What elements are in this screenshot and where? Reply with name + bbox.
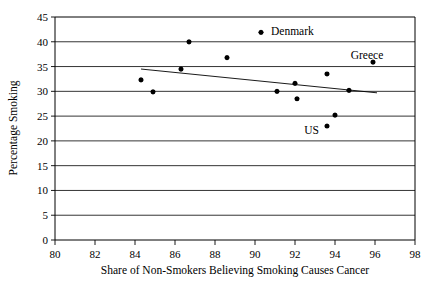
x-tick-label-92: 92: [290, 248, 301, 260]
y-tick-label-15: 15: [37, 160, 49, 172]
data-point-11: [332, 113, 337, 118]
y-tick-label-40: 40: [37, 36, 49, 48]
data-point-denmark: [258, 30, 263, 35]
y-tick-label-30: 30: [37, 85, 49, 97]
y-axis-title: Percentage Smoking: [7, 80, 20, 175]
data-point-3: [186, 39, 191, 44]
annotation-denmark: Denmark: [271, 25, 314, 37]
y-tick-label-25: 25: [37, 110, 49, 122]
data-point-0: [138, 77, 143, 82]
y-tick-label-0: 0: [43, 234, 49, 246]
annotation-greece: Greece: [351, 49, 384, 61]
y-tick-label-10: 10: [37, 184, 49, 196]
x-tick-label-82: 82: [90, 248, 101, 260]
x-tick-label-86: 86: [170, 248, 182, 260]
x-tick-label-96: 96: [370, 248, 382, 260]
y-tick-label-5: 5: [43, 209, 49, 221]
y-tick-label-45: 45: [37, 11, 49, 23]
data-point-6: [274, 89, 279, 94]
data-point-8: [294, 96, 299, 101]
x-tick-label-90: 90: [250, 248, 262, 260]
x-tick-label-84: 84: [130, 248, 142, 260]
data-point-12: [346, 88, 351, 93]
x-tick-label-98: 98: [410, 248, 422, 260]
data-point-4: [224, 55, 229, 60]
data-point-7: [292, 81, 297, 86]
x-tick-label-94: 94: [330, 248, 342, 260]
data-point-1: [150, 89, 155, 94]
data-point-us: [324, 123, 329, 128]
data-point-9: [324, 71, 329, 76]
scatter-plot-canvas: 051015202530354045 80828486889092949698 …: [0, 0, 435, 297]
data-point-2: [178, 66, 183, 71]
y-tick-label-20: 20: [37, 135, 49, 147]
x-axis-title: Share of Non-Smokers Believing Smoking C…: [101, 264, 369, 277]
annotation-us: US: [304, 124, 319, 136]
x-tick-label-80: 80: [50, 248, 62, 260]
scatter-chart-figure: 051015202530354045 80828486889092949698 …: [0, 0, 435, 297]
y-tick-label-35: 35: [37, 61, 49, 73]
x-tick-label-88: 88: [210, 248, 222, 260]
